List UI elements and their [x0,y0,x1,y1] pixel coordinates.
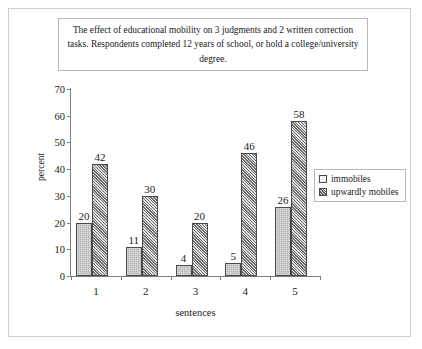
legend-item-upwardly-mobiles[interactable]: upwardly mobiles [319,186,401,198]
bar-upwardly-mobiles-3[interactable]: 20 [192,223,208,276]
plot-area: 010203040506070 12345 204211304205462658 [71,89,320,276]
x-axis-tick [270,276,271,280]
y-axis-tick-label: 0 [60,271,65,282]
x-axis-tick [220,276,221,280]
bar-value-label: 26 [278,194,289,206]
x-axis-tick-label: 3 [193,285,199,297]
y-axis-tick-label: 40 [55,164,66,175]
bar-immobiles-5[interactable]: 26 [275,207,291,276]
y-axis-tick [67,116,71,117]
figure-frame: The effect of educational mobility on 3 … [8,8,411,337]
bar-immobiles-1[interactable]: 20 [76,223,92,276]
bar-value-label: 46 [244,140,255,152]
x-axis-tick-label: 2 [143,285,149,297]
legend-label: upwardly mobiles [331,187,398,197]
bar-value-label: 5 [231,250,237,262]
bar-value-label: 42 [94,151,105,163]
y-axis-tick-label: 60 [55,110,66,121]
bar-immobiles-3[interactable]: 4 [176,265,192,276]
y-axis-tick-label: 20 [55,217,66,228]
x-axis-tick [121,276,122,280]
y-axis-tick-label: 10 [55,244,66,255]
bar-value-label: 20 [194,210,205,222]
bar-value-label: 4 [181,252,187,264]
x-axis-title: sentences [71,307,320,318]
y-axis-title: percent [35,153,46,181]
bar-upwardly-mobiles-5[interactable]: 58 [291,121,307,276]
x-axis-tick [320,276,321,280]
bar-value-label: 58 [294,108,305,120]
x-axis-tick [71,276,72,280]
legend-label: immobiles [331,174,371,184]
y-axis-tick [67,249,71,250]
hatched-square-icon [319,188,327,196]
bar-value-label: 20 [78,210,89,222]
y-axis-tick-label: 50 [55,137,66,148]
bar-value-label: 30 [144,183,155,195]
y-axis-tick [67,142,71,143]
y-axis-tick-label: 70 [55,84,66,95]
bar-upwardly-mobiles-1[interactable]: 42 [92,164,108,276]
bar-upwardly-mobiles-4[interactable]: 46 [241,153,257,276]
chart-title: The effect of educational mobility on 3 … [63,23,363,67]
chart-title-box: The effect of educational mobility on 3 … [58,18,368,71]
bar-immobiles-4[interactable]: 5 [225,263,241,276]
y-axis-tick [67,169,71,170]
light-square-icon [319,175,327,183]
x-axis-tick-label: 4 [243,285,249,297]
legend: immobiles upwardly mobiles [314,169,406,202]
y-axis-tick-label: 30 [55,190,66,201]
y-axis-tick [67,196,71,197]
y-axis-tick [67,89,71,90]
x-axis-tick [171,276,172,280]
bar-upwardly-mobiles-2[interactable]: 30 [142,196,158,276]
x-axis-line [70,276,321,277]
y-axis-tick [67,223,71,224]
bar-value-label: 11 [128,234,139,246]
bar-immobiles-2[interactable]: 11 [126,247,142,276]
x-axis-tick-label: 5 [292,285,298,297]
x-axis-tick-label: 1 [93,285,99,297]
legend-item-immobiles[interactable]: immobiles [319,173,401,185]
